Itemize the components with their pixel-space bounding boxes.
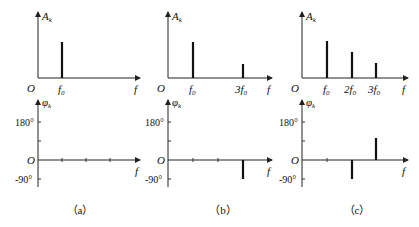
amplitude-x-label: f bbox=[267, 83, 272, 95]
tick-label-f0: f0 bbox=[189, 83, 196, 97]
origin-label: O bbox=[27, 82, 35, 94]
panel-a-amplitude-plot: Ak O f f0 bbox=[27, 10, 140, 97]
panel-caption-a: （a） bbox=[67, 204, 94, 216]
phase-x-label: f bbox=[267, 165, 272, 177]
spectrum-figure: Ak O f f0 φk 180° -90° O f （a） bbox=[0, 0, 419, 227]
panel-c-amplitude-plot: Ak O f f0 2f0 3f0 bbox=[291, 10, 408, 97]
origin-label: O bbox=[157, 154, 165, 166]
phase-tick-180: 180° bbox=[145, 117, 164, 128]
phase-tick-neg90: -90° bbox=[279, 174, 296, 185]
phase-y-label: φk bbox=[42, 96, 52, 110]
panel-b: Ak O f f0 3f0 φk 180° -90° O f （b） bbox=[145, 10, 272, 216]
phase-y-label: φk bbox=[172, 96, 182, 110]
tick-label-3f0: 3f0 bbox=[367, 83, 381, 97]
origin-label: O bbox=[157, 82, 165, 94]
phase-tick-180: 180° bbox=[15, 117, 34, 128]
phase-tick-neg90: -90° bbox=[145, 174, 162, 185]
phase-y-label: φk bbox=[306, 96, 316, 110]
panel-a-phase-plot: φk 180° -90° O f bbox=[15, 96, 140, 187]
panel-caption-b: （b） bbox=[209, 204, 237, 216]
tick-label-f0: f0 bbox=[58, 83, 65, 97]
panel-b-phase-plot: φk 180° -90° O f bbox=[145, 96, 272, 187]
phase-tick-neg90: -90° bbox=[15, 174, 32, 185]
amplitude-x-label: f bbox=[402, 83, 407, 95]
tick-label-2f0: 2f0 bbox=[344, 83, 357, 97]
tick-label-f0: f0 bbox=[323, 83, 330, 97]
panel-c-phase-plot: φk 180° -90° O f bbox=[279, 96, 408, 187]
amplitude-y-label: Ak bbox=[171, 10, 183, 24]
panel-a: Ak O f f0 φk 180° -90° O f （a） bbox=[15, 10, 140, 216]
origin-label: O bbox=[291, 154, 299, 166]
panel-c: Ak O f f0 2f0 3f0 φk 180° -90° O f （c） bbox=[279, 10, 408, 216]
phase-x-label: f bbox=[135, 165, 140, 177]
origin-label: O bbox=[291, 82, 299, 94]
phase-tick-180: 180° bbox=[279, 117, 298, 128]
origin-label: O bbox=[27, 154, 35, 166]
amplitude-y-label: Ak bbox=[305, 10, 317, 24]
phase-x-label: f bbox=[402, 165, 407, 177]
amplitude-x-label: f bbox=[134, 83, 139, 95]
panel-b-amplitude-plot: Ak O f f0 3f0 bbox=[157, 10, 272, 97]
panel-caption-c: （c） bbox=[344, 204, 371, 216]
amplitude-y-label: Ak bbox=[41, 10, 53, 24]
tick-label-3f0: 3f0 bbox=[234, 83, 248, 97]
